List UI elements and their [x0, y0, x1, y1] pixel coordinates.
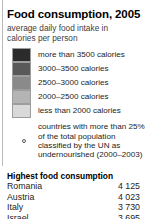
country-name: Israel — [7, 213, 29, 219]
legend-item-undernourished: countries with more than 25% of the tota… — [7, 122, 155, 160]
legend-content: Food consumption, 2005 average daily foo… — [7, 0, 155, 160]
color-swatch — [12, 48, 31, 62]
legend-item-label: 3000–3500 calories — [38, 64, 109, 74]
country-name: Italy — [7, 202, 23, 213]
legend-note-text: countries with more than 25% of the tota… — [38, 122, 150, 160]
legend-item-label: 2500–3000 calories — [38, 78, 109, 88]
highest-consumption-table: Highest food consumption Romania 4 125 A… — [7, 171, 153, 219]
country-name: Austria — [7, 192, 34, 203]
left-margin-rule — [2, 0, 3, 166]
table-row: Austria 4 023 — [7, 192, 153, 203]
calorie-value: 4 023 — [118, 192, 153, 203]
table-title: Highest food consumption — [7, 171, 153, 181]
legend-class-list: more than 3500 calories 3000–3500 calori… — [7, 48, 155, 118]
open-circle-icon — [12, 139, 36, 143]
legend-item-2500-3000: 2500–3000 calories — [7, 76, 155, 90]
legend-item-more-than-3500: more than 3500 calories — [7, 48, 155, 62]
table-row: Israel 3 695 — [7, 213, 153, 219]
calorie-value: 3 730 — [118, 202, 153, 213]
table-row: Italy 3 730 — [7, 202, 153, 213]
color-swatch — [12, 62, 31, 76]
page-subtitle: average daily food intake in calories pe… — [7, 24, 127, 43]
page-title: Food consumption, 2005 — [7, 8, 155, 21]
country-name: Romania — [7, 181, 42, 192]
legend-item-less-than-2000: less than 2000 calories — [7, 104, 155, 118]
legend-item-3000-3500: 3000–3500 calories — [7, 62, 155, 76]
food-consumption-legend-panel: Food consumption, 2005 average daily foo… — [0, 0, 159, 219]
color-swatch — [12, 90, 31, 104]
calorie-value: 4 125 — [118, 181, 153, 192]
color-swatch — [12, 104, 31, 118]
legend-item-label: less than 2000 calories — [38, 106, 121, 116]
legend-item-label: 2000–2500 calories — [38, 92, 109, 102]
color-swatch — [12, 76, 31, 90]
legend-item-label: more than 3500 calories — [38, 50, 125, 60]
calorie-value: 3 695 — [118, 213, 153, 219]
legend-item-2000-2500: 2000–2500 calories — [7, 90, 155, 104]
table-row: Romania 4 125 — [7, 181, 153, 192]
